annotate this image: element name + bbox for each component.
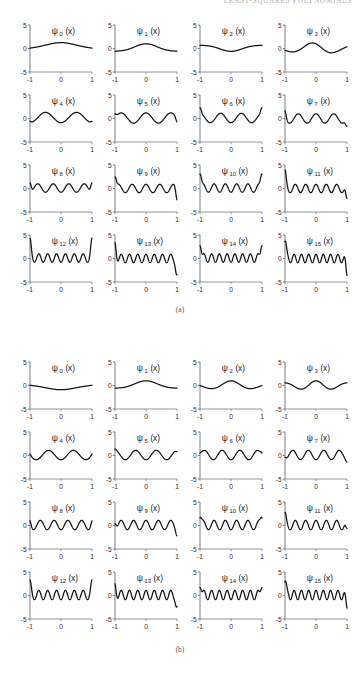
curve-psi_5 <box>115 449 177 460</box>
y-tick-label: -5 <box>106 616 112 623</box>
svg-text:ψ: ψ <box>307 166 313 176</box>
x-tick-label: -1 <box>282 623 288 630</box>
y-tick-label: 0 <box>108 185 112 192</box>
panel-label: ψ11(x) <box>307 166 333 178</box>
panel-label: ψ14(x) <box>222 573 248 585</box>
x-tick-label: 0 <box>314 413 318 420</box>
svg-text:(x): (x) <box>320 27 330 36</box>
subplot-psi-7: -505-101ψ7(x) <box>267 425 351 495</box>
x-tick-label: 0 <box>314 76 318 83</box>
y-tick-label: 0 <box>278 592 282 599</box>
y-tick-label: 5 <box>193 162 197 169</box>
y-tick-label: 5 <box>23 22 27 29</box>
subplot-psi-4: -505-101ψ4(x) <box>12 425 96 495</box>
curve-psi_4 <box>30 450 92 459</box>
y-tick-label: 5 <box>278 22 282 29</box>
x-tick-label: 1 <box>260 413 264 420</box>
y-tick-label: 5 <box>23 499 27 506</box>
x-tick-label: -1 <box>282 483 288 490</box>
y-tick-label: -5 <box>106 209 112 216</box>
x-tick-label: -1 <box>282 76 288 83</box>
svg-text:ψ: ψ <box>307 236 313 246</box>
subplot-psi-12: -505-101ψ12(x) <box>12 565 96 635</box>
svg-text:ψ: ψ <box>52 433 58 443</box>
subplot-psi-15: -505-101ψ15(x) <box>267 228 351 298</box>
svg-text:(x): (x) <box>65 364 75 373</box>
x-tick-label: 0 <box>229 76 233 83</box>
y-tick-label: 0 <box>278 255 282 262</box>
x-tick-label: 0 <box>229 146 233 153</box>
curve-psi_0 <box>30 385 92 389</box>
x-tick-label: -1 <box>197 76 203 83</box>
y-tick-label: -5 <box>21 476 27 483</box>
y-tick-label: 0 <box>278 452 282 459</box>
subplot-psi-11: -505-101ψ11(x) <box>267 158 351 228</box>
x-tick-label: 0 <box>144 553 148 560</box>
svg-text:5: 5 <box>144 101 148 107</box>
panel-label: ψ3(x) <box>307 26 330 38</box>
svg-text:ψ: ψ <box>222 26 228 36</box>
y-tick-label: 5 <box>108 92 112 99</box>
y-tick-label: -5 <box>276 209 282 216</box>
svg-text:(x): (x) <box>238 167 248 176</box>
y-tick-label: -5 <box>191 406 197 413</box>
x-tick-label: -1 <box>27 553 33 560</box>
panel-label: ψ4(x) <box>52 433 75 445</box>
y-tick-label: 0 <box>23 45 27 52</box>
panel-label: ψ12(x) <box>52 573 78 585</box>
y-tick-label: 5 <box>193 429 197 436</box>
y-tick-label: 0 <box>278 185 282 192</box>
svg-text:5: 5 <box>144 438 148 444</box>
svg-text:(x): (x) <box>150 97 160 106</box>
y-tick-label: 0 <box>108 115 112 122</box>
x-tick-label: 1 <box>175 413 179 420</box>
svg-text:4: 4 <box>59 101 63 107</box>
svg-text:9: 9 <box>144 508 147 514</box>
svg-text:13: 13 <box>144 241 151 247</box>
curve-psi_2 <box>200 45 262 51</box>
y-tick-label: 5 <box>278 359 282 366</box>
subplot-psi-1: -505-101ψ1(x) <box>97 18 181 88</box>
y-tick-label: 0 <box>278 45 282 52</box>
panel-label: ψ10(x) <box>222 166 248 178</box>
x-tick-label: -1 <box>112 623 118 630</box>
y-tick-label: 0 <box>278 115 282 122</box>
svg-text:(x): (x) <box>65 27 75 36</box>
svg-text:8: 8 <box>59 508 63 514</box>
svg-text:2: 2 <box>229 368 232 374</box>
panel-label: ψ5(x) <box>137 96 160 108</box>
svg-text:11: 11 <box>314 508 320 514</box>
y-tick-label: -5 <box>106 279 112 286</box>
panel-label: ψ9(x) <box>137 166 160 178</box>
x-tick-label: 0 <box>229 216 233 223</box>
panel-label: ψ11(x) <box>307 503 333 515</box>
curve-psi_13 <box>115 243 177 275</box>
x-tick-label: 1 <box>345 216 349 223</box>
x-tick-label: 1 <box>90 76 94 83</box>
svg-text:(x): (x) <box>323 504 333 513</box>
svg-text:10: 10 <box>229 171 236 177</box>
y-tick-label: 5 <box>278 429 282 436</box>
subplot-psi-13: -505-101ψ13(x) <box>97 228 181 298</box>
svg-text:ψ: ψ <box>222 433 228 443</box>
y-tick-label: -5 <box>21 209 27 216</box>
subplot-psi-6: -505-101ψ6(x) <box>182 88 266 158</box>
svg-text:(x): (x) <box>150 167 160 176</box>
subplot-psi-12: -505-101ψ12(x) <box>12 228 96 298</box>
subplot-psi-4: -505-101ψ4(x) <box>12 88 96 158</box>
curve-psi_15 <box>285 581 347 608</box>
x-tick-label: 0 <box>314 286 318 293</box>
curve-psi_10 <box>200 517 262 529</box>
svg-text:(x): (x) <box>320 434 330 443</box>
x-tick-label: 1 <box>90 413 94 420</box>
panel-label: ψ15(x) <box>307 236 333 248</box>
curve-psi_6 <box>200 108 262 123</box>
y-tick-label: 5 <box>278 569 282 576</box>
y-tick-label: 5 <box>108 162 112 169</box>
subplot-psi-2: -505-101ψ2(x) <box>182 18 266 88</box>
svg-text:ψ: ψ <box>222 236 228 246</box>
svg-text:10: 10 <box>229 508 236 514</box>
x-tick-label: 1 <box>345 146 349 153</box>
panel-label: ψ7(x) <box>307 96 330 108</box>
svg-text:(x): (x) <box>323 237 333 246</box>
